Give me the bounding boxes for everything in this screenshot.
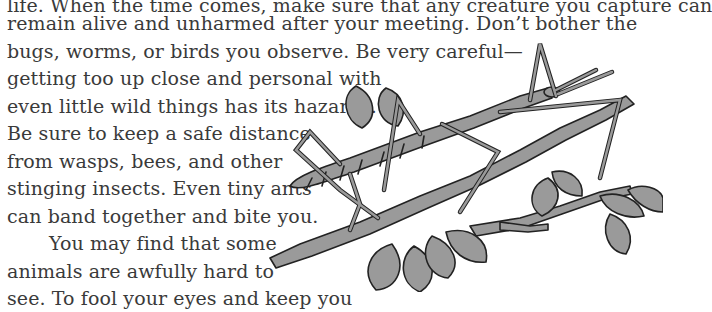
text-line: stinging insects. Even tiny ants bbox=[7, 174, 312, 202]
walking-stick-insect-illustration bbox=[268, 36, 663, 292]
text-line: animals are awfully hard to bbox=[7, 257, 274, 285]
paragraph-start-line: You may find that some bbox=[49, 229, 277, 257]
text-line: Be sure to keep a safe distance bbox=[7, 119, 311, 147]
text-line: from wasps, bees, and other bbox=[7, 147, 283, 175]
text-line: remain alive and unharmed after your mee… bbox=[7, 9, 637, 37]
